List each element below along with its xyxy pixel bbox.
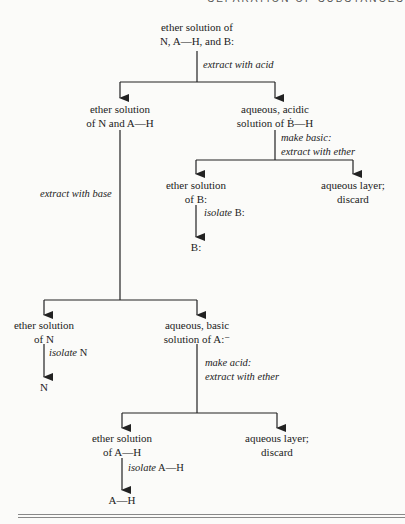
node-ether-ah: ether solution of A—H — [92, 431, 152, 459]
node-label: aqueous layer; — [321, 178, 385, 192]
node-label: aqueous, acidic — [237, 102, 313, 116]
node-label: N, A—H, and B: — [160, 34, 234, 48]
step-label-compound: N — [77, 347, 87, 358]
node-label: solution of Ḃ—H — [237, 116, 313, 130]
node-ether-b: ether solution of B: — [166, 178, 226, 206]
node-aqueous-layer-discard-2: aqueous layer; discard — [245, 431, 309, 459]
step-make-acid: make acid: extract with ether — [205, 356, 279, 384]
node-label: B: — [191, 240, 201, 254]
step-extract-with-base: extract with base — [40, 187, 112, 201]
node-label: of A—H — [92, 445, 152, 459]
step-make-basic: make basic: extract with ether — [281, 131, 355, 159]
node-label: ether solution — [86, 102, 154, 116]
step-extract-with-acid: extract with acid — [203, 58, 274, 72]
step-label: extract with ether — [205, 370, 279, 384]
node-label: discard — [245, 445, 309, 459]
step-isolate-b: isolate B: — [204, 206, 245, 220]
step-label: extract with base — [40, 187, 112, 201]
node-label: discard — [321, 192, 385, 206]
node-label: of N and A—H — [86, 116, 154, 130]
node-label: of N — [14, 332, 74, 346]
node-label: aqueous, basic — [164, 318, 230, 332]
node-label: solution of A:⁻ — [164, 332, 230, 346]
node-product-b: B: — [191, 240, 201, 254]
connector-lines — [0, 0, 405, 524]
step-label: make basic: — [281, 131, 355, 145]
node-aqueous-basic-a: aqueous, basic solution of A:⁻ — [164, 318, 230, 346]
separation-flowchart: SEPARATION OF SUBSTANCES — [0, 0, 405, 524]
node-label: ether solution — [14, 318, 74, 332]
node-label: of B: — [166, 192, 226, 206]
node-product-ah: A—H — [109, 493, 136, 507]
node-label: ether solution — [166, 178, 226, 192]
node-product-n: N — [40, 380, 48, 394]
step-label-compound: B: — [232, 207, 245, 218]
step-label: make acid: — [205, 356, 279, 370]
step-label: isolate — [128, 462, 156, 473]
step-label: isolate — [204, 207, 232, 218]
step-label: isolate — [49, 347, 77, 358]
node-aqueous-acidic-bh: aqueous, acidic solution of Ḃ—H — [237, 102, 313, 130]
node-label: aqueous layer; — [245, 431, 309, 445]
step-label: extract with ether — [281, 145, 355, 159]
node-ether-n: ether solution of N — [14, 318, 74, 346]
node-start-mixture: ether solution of N, A—H, and B: — [160, 20, 234, 48]
step-isolate-n: isolate N — [49, 346, 87, 360]
node-ether-n-ah: ether solution of N and A—H — [86, 102, 154, 130]
node-aqueous-layer-discard-1: aqueous layer; discard — [321, 178, 385, 206]
bottom-rule-top — [18, 514, 405, 515]
node-label: A—H — [109, 493, 136, 507]
step-label: extract with acid — [203, 58, 274, 72]
step-label-compound: A—H — [156, 462, 184, 473]
bottom-rule-bottom — [18, 517, 405, 518]
node-label: ether solution of — [160, 20, 234, 34]
node-label: N — [40, 380, 48, 394]
node-label: ether solution — [92, 431, 152, 445]
step-isolate-ah: isolate A—H — [128, 461, 184, 475]
